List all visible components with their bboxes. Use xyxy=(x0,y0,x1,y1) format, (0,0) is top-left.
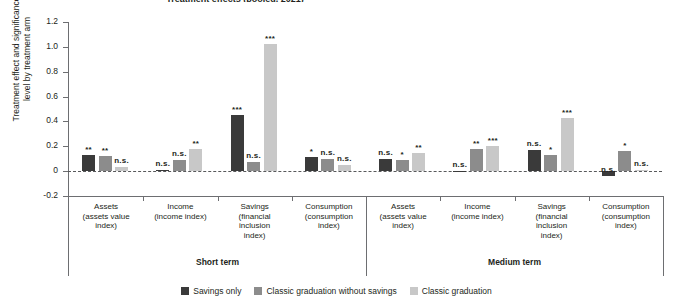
bar xyxy=(635,170,648,172)
category-label-line: (income index) xyxy=(143,212,217,222)
y-tick-label: 1.2 xyxy=(28,16,58,26)
bar xyxy=(189,149,202,171)
category-label-line: index) xyxy=(218,231,292,241)
category-label-line: index) xyxy=(69,221,143,231)
group-label: Medium term xyxy=(366,257,663,267)
category-tick xyxy=(143,197,144,201)
category-label: Assets(assets valueindex) xyxy=(69,202,143,231)
y-tick-label: 0.8 xyxy=(28,66,58,76)
bar xyxy=(396,160,409,171)
category-label-line: Income xyxy=(440,202,514,212)
y-axis-title-line1: Treatment effect and significance xyxy=(11,0,21,121)
y-tick-label: 1.0 xyxy=(28,41,58,51)
category-label-line: Consumption xyxy=(589,202,663,212)
y-tick-label: 0.4 xyxy=(28,115,58,125)
category-label-line: Savings xyxy=(218,202,292,212)
category-label-line: (financial xyxy=(515,212,589,222)
bar xyxy=(231,115,244,171)
category-label-line: Savings xyxy=(515,202,589,212)
category-label-line: index) xyxy=(515,231,589,241)
bar xyxy=(173,160,186,171)
significance-label: * xyxy=(612,141,638,150)
legend-item[interactable]: Classic graduation xyxy=(410,286,492,296)
category-label-line: Assets xyxy=(69,202,143,212)
group-label: Short term xyxy=(69,257,366,267)
category-label: Savings(financialinclusionindex) xyxy=(515,202,589,240)
y-tick-label: 0 xyxy=(28,165,58,175)
category-label: Savings(financialinclusionindex) xyxy=(218,202,292,240)
bar xyxy=(561,118,574,171)
category-tick xyxy=(589,197,590,201)
significance-label: n.s. xyxy=(109,156,135,165)
bar xyxy=(544,155,557,171)
chart-title: Treatment effects (pooled, 2021) xyxy=(70,0,400,2)
significance-label: ** xyxy=(406,143,432,152)
bar xyxy=(264,44,277,171)
legend-swatch xyxy=(254,287,262,295)
legend-item[interactable]: Savings only xyxy=(181,286,241,296)
category-tick xyxy=(515,197,516,201)
category-label-line: Consumption xyxy=(292,202,366,212)
category-label-line: Assets xyxy=(366,202,440,212)
bar xyxy=(115,167,128,171)
category-label: Consumption(consumptionindex) xyxy=(589,202,663,231)
bar xyxy=(470,149,483,171)
category-label: Consumption(consumptionindex) xyxy=(292,202,366,231)
bar xyxy=(82,155,95,171)
category-label-line: index) xyxy=(589,221,663,231)
significance-label: *** xyxy=(554,108,580,117)
plot-area: ****n.s.n.s.n.s.*****n.s.****n.s.n.s.n.s… xyxy=(68,22,662,196)
significance-label: n.s. xyxy=(331,154,357,163)
legend-item[interactable]: Classic graduation without savings xyxy=(254,286,396,296)
significance-label: ** xyxy=(92,146,118,155)
category-tick xyxy=(440,197,441,201)
bar xyxy=(156,170,169,172)
category-label-line: (assets value xyxy=(69,212,143,222)
category-label-line: inclusion xyxy=(218,221,292,231)
legend-swatch xyxy=(181,287,189,295)
category-label-line: (consumption xyxy=(589,212,663,222)
category-tick xyxy=(218,197,219,201)
legend-label: Classic graduation xyxy=(422,286,492,296)
bar xyxy=(453,171,466,173)
bar xyxy=(247,162,260,171)
bar xyxy=(486,146,499,171)
y-tick-label: 0.2 xyxy=(28,140,58,150)
significance-label: *** xyxy=(480,136,506,145)
category-label-line: (consumption xyxy=(292,212,366,222)
bar xyxy=(338,165,351,171)
category-label-line: index) xyxy=(292,221,366,231)
chart-legend: Savings onlyClassic graduation without s… xyxy=(0,286,673,296)
category-label: Income(income index) xyxy=(143,202,217,221)
legend-swatch xyxy=(410,287,418,295)
significance-label: ** xyxy=(183,139,209,148)
category-label-line: inclusion xyxy=(515,221,589,231)
category-label: Income(income index) xyxy=(440,202,514,221)
category-label-line: index) xyxy=(366,221,440,231)
y-tick-label: 0.6 xyxy=(28,91,58,101)
legend-label: Classic graduation without savings xyxy=(266,286,396,296)
category-axis: Assets(assets valueindex)Income(income i… xyxy=(68,196,664,276)
category-label-line: (assets value xyxy=(366,212,440,222)
significance-label: *** xyxy=(257,34,283,43)
category-label: Assets(assets valueindex) xyxy=(366,202,440,231)
category-label-line: (income index) xyxy=(440,212,514,222)
significance-label: n.s. xyxy=(628,159,654,168)
bar xyxy=(412,153,425,172)
chart-figure: Treatment effects (pooled, 2021) Treatme… xyxy=(0,0,673,305)
significance-label: *** xyxy=(224,105,250,114)
category-label-line: (financial xyxy=(218,212,292,222)
y-axis-title-line2: level by treatment arm xyxy=(22,17,32,101)
y-tick-label: -0.2 xyxy=(28,190,58,200)
bar xyxy=(305,157,318,171)
bar xyxy=(379,159,392,171)
category-label-line: Income xyxy=(143,202,217,212)
legend-label: Savings only xyxy=(193,286,241,296)
category-tick xyxy=(292,197,293,201)
